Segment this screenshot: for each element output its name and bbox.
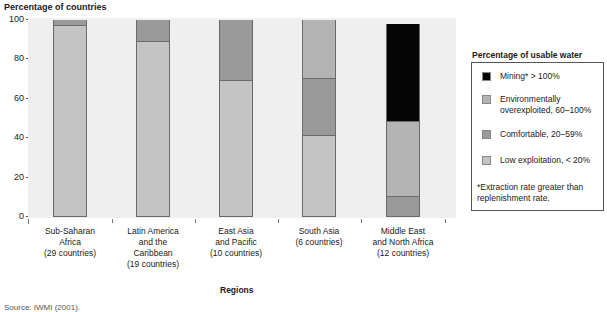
legend-label-line2: overexploited, 60–100% (500, 105, 591, 116)
x-axis-tick (445, 219, 446, 223)
legend-swatch (482, 130, 491, 139)
y-tick-label: 60 (0, 93, 24, 103)
x-tick-label-line: Sub-Saharan (25, 226, 115, 237)
x-tick-label-line: and the (108, 237, 198, 248)
bar (302, 20, 336, 217)
x-tick-label: Latin Americaand theCaribbean(19 countri… (108, 226, 198, 270)
x-tick-label: East Asiaand Pacific(10 countries) (191, 226, 281, 259)
x-tick-label-line: Africa (25, 237, 115, 248)
bar-segment (137, 42, 169, 216)
bar-segment (220, 81, 252, 216)
x-tick-label-line: (19 countries) (108, 259, 198, 270)
bar-segment (303, 136, 335, 216)
bar-segment (303, 79, 335, 136)
x-tick-label-line: Middle East (358, 226, 448, 237)
x-axis-tick (278, 219, 279, 223)
bar-segment (303, 20, 335, 79)
x-tick-label-line: (10 countries) (191, 248, 281, 259)
y-tick-label: 40 (0, 132, 24, 142)
bar (386, 24, 420, 217)
y-tick-label: 100 (0, 14, 24, 24)
x-tick-label: Middle Eastand North Africa(12 countries… (358, 226, 448, 259)
y-axis-title: Percentage of countries (4, 2, 107, 12)
bar-segment (387, 197, 419, 216)
legend-footnote: *Extraction rate greater than replenishm… (477, 182, 602, 204)
legend-title: Percentage of usable water (472, 50, 582, 60)
bar (136, 20, 170, 217)
x-axis-tick (361, 219, 362, 223)
legend-swatch (482, 95, 491, 104)
legend-label: Comfortable, 20–59% (500, 129, 582, 140)
x-tick-label-line: (6 countries) (274, 237, 364, 248)
x-tick-label-line: (29 countries) (25, 248, 115, 259)
x-axis-tick (28, 219, 29, 224)
x-axis-tick (195, 219, 196, 223)
legend-label: Environmentally (500, 94, 560, 105)
bar-segment (220, 20, 252, 81)
y-tick-label: 20 (0, 172, 24, 182)
bar-segment (137, 20, 169, 42)
bar-segment (387, 24, 419, 123)
x-tick-label-line: and Pacific (191, 237, 281, 248)
legend-swatch (482, 156, 491, 165)
x-tick-label: South Asia(6 countries) (274, 226, 364, 248)
legend: Mining* > 100% Environmentally overexplo… (471, 62, 604, 211)
legend-label: Low exploitation, < 20% (500, 155, 590, 166)
x-tick-label-line: Caribbean (108, 248, 198, 259)
bar (53, 20, 87, 217)
bar (219, 20, 253, 217)
x-axis-tick (112, 219, 113, 223)
x-axis-title: Regions (220, 285, 254, 295)
source-note: Source: IWMI (2001). (4, 303, 80, 312)
x-tick-label-line: South Asia (274, 226, 364, 237)
bar-segment (387, 122, 419, 197)
x-tick-label: Sub-SaharanAfrica(29 countries) (25, 226, 115, 259)
x-tick-label-line: Latin America (108, 226, 198, 237)
legend-swatch (482, 72, 491, 81)
y-tick-label: 0 (0, 211, 24, 221)
legend-label: Mining* > 100% (500, 71, 560, 82)
x-tick-label-line: East Asia (191, 226, 281, 237)
bar-segment (54, 26, 86, 216)
x-tick-label-line: (12 countries) (358, 248, 448, 259)
x-tick-label-line: and North Africa (358, 237, 448, 248)
bar-segment (54, 20, 86, 26)
y-tick-label: 80 (0, 53, 24, 63)
